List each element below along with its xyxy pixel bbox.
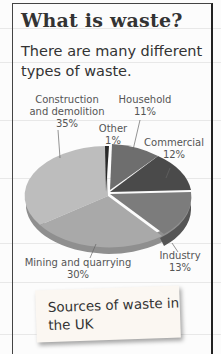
leader-line: [133, 120, 140, 150]
label-industry-value: 13%: [155, 262, 205, 274]
label-mining-value: 30%: [22, 269, 134, 281]
label-household: Household 11%: [112, 94, 178, 118]
label-other: Other 1%: [93, 123, 133, 147]
caption-note: Sources of waste in the UK: [35, 286, 181, 343]
caption-text: Sources of waste in the UK: [47, 293, 180, 334]
label-commercial-name: Commercial: [140, 137, 208, 149]
label-mining-name: Mining and quarrying: [22, 257, 134, 269]
label-other-value: 1%: [93, 135, 133, 147]
label-other-name: Other: [93, 123, 133, 135]
label-construction-name1: Construction: [19, 94, 115, 106]
label-mining: Mining and quarrying 30%: [22, 257, 134, 281]
label-industry-name: Industry: [155, 250, 205, 262]
leader-line: [58, 130, 60, 158]
label-household-value: 11%: [112, 106, 178, 118]
label-construction-name2: and demolition: [19, 106, 115, 118]
label-household-name: Household: [112, 94, 178, 106]
label-commercial-value: 12%: [140, 149, 208, 161]
label-commercial: Commercial 12%: [140, 137, 208, 161]
label-industry: Industry 13%: [155, 250, 205, 274]
